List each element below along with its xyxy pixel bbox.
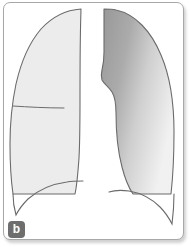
- right-lung-field-shape: [10, 9, 81, 194]
- diaphragm-contour-right-shape: [109, 190, 174, 224]
- panel-label-badge: b: [8, 221, 25, 238]
- left-lung-field-shape: [101, 9, 174, 194]
- figure-panel: b: [0, 0, 191, 247]
- lung-illustration: [0, 0, 191, 247]
